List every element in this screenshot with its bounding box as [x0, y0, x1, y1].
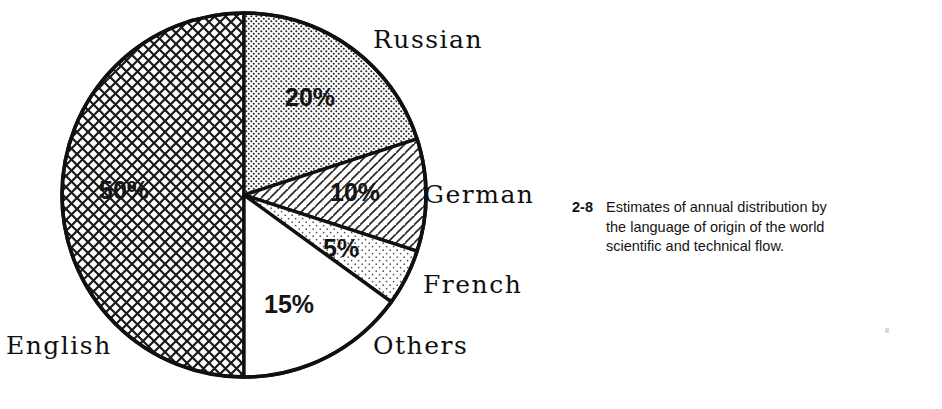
pie-chart: 50% 20% 10% 5% 15% English Russian Germa… — [0, 0, 560, 409]
figure-number: 2-8 — [572, 198, 593, 218]
slice-label-russian: Russian — [373, 27, 483, 52]
slice-label-others: Others — [373, 333, 468, 358]
slice-value-english: 50% — [99, 178, 149, 203]
figure-container: 50% 20% 10% 5% 15% English Russian Germa… — [0, 0, 942, 409]
slice-value-german: 10% — [330, 180, 380, 205]
slice-value-others: 15% — [264, 292, 314, 317]
scan-artifact-speck — [885, 328, 889, 333]
pie-slice-english[interactable] — [62, 13, 244, 377]
slice-label-english: English — [6, 333, 112, 358]
figure-caption: 2-8 Estimates of annual distribution by … — [572, 198, 932, 257]
slice-value-russian: 20% — [285, 85, 335, 110]
slice-label-german: German — [424, 182, 534, 207]
figure-caption-text: Estimates of annual distribution by the … — [606, 198, 838, 257]
slice-value-french: 5% — [323, 236, 359, 261]
slice-label-french: French — [423, 272, 522, 297]
